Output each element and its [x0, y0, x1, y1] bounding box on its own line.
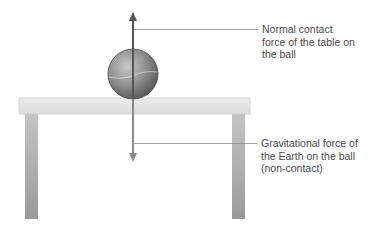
table-top [19, 98, 250, 114]
gravitational-force-label: Gravitational force of the Earth on the … [261, 137, 358, 175]
table-leg-right [232, 114, 245, 219]
normal-force-label: Normal contact force of the table on the… [262, 23, 355, 61]
table-leg-left [25, 114, 38, 219]
